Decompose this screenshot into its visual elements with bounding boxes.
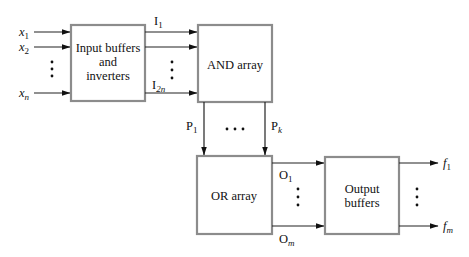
or-array-label: OR array <box>211 189 258 203</box>
or-array-block: OR array <box>197 156 272 234</box>
and-array-block: AND array <box>198 25 272 102</box>
buffered-ellipsis-icon <box>171 61 174 80</box>
label-f1: f1 <box>443 156 451 172</box>
label-x2: x2 <box>18 40 29 56</box>
output-wires <box>399 163 438 226</box>
output-block-line1: Output <box>345 182 380 196</box>
input-labels: x1 x2 xn <box>18 25 30 102</box>
label-pk: Pk <box>271 119 283 135</box>
label-o1: O1 <box>279 168 293 184</box>
or-output-ellipsis-icon <box>297 188 300 207</box>
input-buffers-block: Input buffers and inverters <box>71 25 145 101</box>
input-block-line1: Input buffers <box>76 41 141 55</box>
label-x1: x1 <box>18 25 29 41</box>
input-block-line2: and <box>99 55 118 69</box>
label-xn: xn <box>18 86 30 102</box>
output-block-line2: buffers <box>344 196 379 210</box>
label-om: Om <box>279 232 295 248</box>
output-ellipsis-icon <box>416 188 419 207</box>
label-p1: P1 <box>186 119 197 135</box>
label-i1: I1 <box>154 14 163 30</box>
label-fm: fm <box>443 219 453 235</box>
output-buffers-block: Output buffers <box>325 157 399 234</box>
label-i2n: I2n <box>152 78 166 94</box>
and-array-label: AND array <box>207 58 264 72</box>
input-block-line3: inverters <box>86 69 130 83</box>
product-ellipsis-icon <box>226 128 245 131</box>
pla-block-diagram: x1 x2 xn Input buffers and inverters I1 … <box>0 0 469 257</box>
input-ellipsis-icon <box>51 61 54 78</box>
